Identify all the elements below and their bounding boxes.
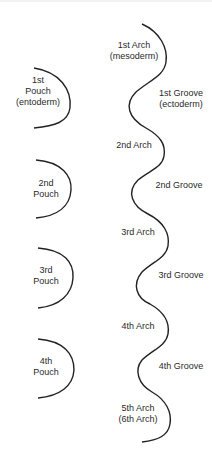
groove-2-label: 2nd Groove [150, 180, 208, 191]
pouch-4-label: 4th Pouch [26, 356, 66, 378]
arch-1-label: 1st Arch (mesoderm) [108, 40, 160, 62]
pouch-2-label: 2nd Pouch [26, 178, 66, 200]
groove-4-label: 4th Groove [152, 361, 210, 372]
arch-2-label: 2nd Arch [112, 140, 156, 151]
arches-grooves-pouches-diagram [0, 0, 212, 459]
arch-5-label: 5th Arch (6th Arch) [112, 403, 164, 425]
pouch-3-label: 3rd Pouch [26, 265, 66, 287]
groove-1-label: 1st Groove (ectoderm) [152, 88, 210, 110]
pouch-1-label: 1st Pouch (entoderm) [14, 75, 62, 108]
arch-3-label: 3rd Arch [116, 227, 160, 238]
groove-3-label: 3rd Groove [152, 270, 210, 281]
arch-4-label: 4th Arch [116, 321, 160, 332]
